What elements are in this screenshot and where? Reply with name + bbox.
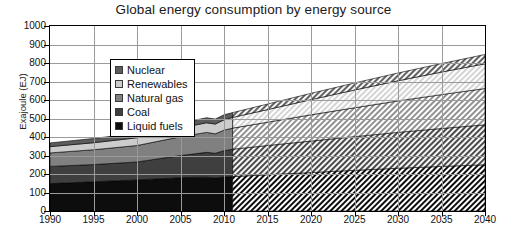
y-tick-400: 400	[0, 132, 46, 142]
gridline-v	[355, 26, 356, 211]
legend-item-renewables: Renewables	[115, 77, 188, 91]
legend-label: Natural gas	[127, 93, 183, 104]
legend-swatch-icon	[115, 122, 123, 130]
x-tick-1990: 1990	[30, 215, 70, 225]
x-tickmark	[398, 212, 399, 216]
legend-label: Nuclear	[127, 65, 165, 76]
x-tick-2040: 2040	[465, 215, 505, 225]
legend-label: Liquid fuels	[127, 121, 183, 132]
x-tickmark	[50, 212, 51, 216]
x-tick-1995: 1995	[74, 215, 114, 225]
gridline-v	[94, 26, 95, 211]
gridline-v	[224, 26, 225, 211]
gridline-v	[398, 26, 399, 211]
x-tick-2035: 2035	[422, 215, 462, 225]
gridline-v	[311, 26, 312, 211]
legend-swatch-icon	[115, 94, 123, 102]
legend-swatch-icon	[115, 108, 123, 116]
legend-item-natural-gas: Natural gas	[115, 91, 188, 105]
x-tickmark	[137, 212, 138, 216]
x-tick-2030: 2030	[378, 215, 418, 225]
chart-title: Global energy consumption by energy sour…	[0, 2, 507, 17]
x-tickmark	[268, 212, 269, 216]
legend-item-liquid-fuels: Liquid fuels	[115, 119, 188, 133]
x-tick-2025: 2025	[335, 215, 375, 225]
x-tick-2015: 2015	[248, 215, 288, 225]
x-tick-2020: 2020	[291, 215, 331, 225]
x-tickmark	[355, 212, 356, 216]
x-tickmark	[94, 212, 95, 216]
y-tick-500: 500	[0, 114, 46, 124]
legend-label: Coal	[127, 107, 150, 118]
y-tick-900: 900	[0, 40, 46, 50]
legend-item-coal: Coal	[115, 105, 188, 119]
gridline-v	[268, 26, 269, 211]
x-tickmark	[181, 212, 182, 216]
y-tick-300: 300	[0, 151, 46, 161]
plot-area: NuclearRenewablesNatural gasCoalLiquid f…	[49, 25, 486, 212]
chart-root: Global energy consumption by energy sour…	[0, 0, 507, 245]
legend-swatch-icon	[115, 80, 123, 88]
x-tick-2005: 2005	[161, 215, 201, 225]
y-tick-100: 100	[0, 188, 46, 198]
legend-label: Renewables	[127, 79, 188, 90]
chart-legend: NuclearRenewablesNatural gasCoalLiquid f…	[110, 59, 195, 137]
y-tick-800: 800	[0, 58, 46, 68]
legend-item-nuclear: Nuclear	[115, 63, 188, 77]
legend-swatch-icon	[115, 66, 123, 74]
x-tickmark	[442, 212, 443, 216]
y-tick-1000: 1000	[0, 21, 46, 31]
y-tick-200: 200	[0, 169, 46, 179]
gridline-v	[442, 26, 443, 211]
x-tickmark	[311, 212, 312, 216]
x-tickmark	[224, 212, 225, 216]
y-tick-700: 700	[0, 77, 46, 87]
x-tickmark	[485, 212, 486, 216]
y-tick-600: 600	[0, 95, 46, 105]
x-tick-2010: 2010	[204, 215, 244, 225]
x-tick-2000: 2000	[117, 215, 157, 225]
